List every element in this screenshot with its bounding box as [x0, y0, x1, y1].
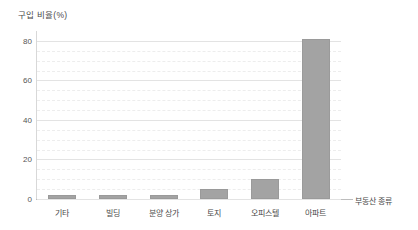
y-axis-tick-label: 40 — [4, 115, 32, 124]
bar-빌딩[interactable] — [99, 195, 127, 199]
bar-series — [37, 31, 341, 199]
y-axis-tick-label: 60 — [4, 76, 32, 85]
bar-slot — [37, 31, 88, 199]
x-axis-tick-label-slot: 토지 — [189, 202, 240, 220]
y-axis-tick-label: 20 — [4, 155, 32, 164]
x-axis-tick-label: 분양 상가 — [149, 209, 179, 218]
x-axis-tick-label: 아파트 — [305, 209, 326, 218]
y-axis-tick-label: 80 — [4, 36, 32, 45]
bar-slot — [240, 31, 291, 199]
x-axis-tick-label-slot: 아파트 — [290, 202, 341, 220]
bar-토지[interactable] — [200, 189, 228, 199]
bar-아파트[interactable] — [302, 39, 330, 199]
x-axis-tick-label-slot: 분양 상가 — [138, 202, 189, 220]
bar-오피스텔[interactable] — [251, 179, 279, 199]
x-axis-title-leader-line — [341, 199, 353, 200]
x-axis-tick-label: 토지 — [207, 209, 221, 218]
x-axis-tick-label: 빌딩 — [106, 209, 120, 218]
x-axis-title: 부동산 종류 — [355, 195, 392, 206]
x-axis-tick-label-slot: 기타 — [37, 202, 88, 220]
gridline-major — [37, 199, 341, 200]
x-axis-tick-labels: 기타빌딩분양 상가토지오피스텔아파트 — [37, 202, 341, 220]
x-axis-tick-label-slot: 오피스텔 — [240, 202, 291, 220]
bar-slot — [88, 31, 139, 199]
y-axis-tick-label: 0 — [4, 195, 32, 204]
bar-chart: 구입 비율(%) 020406080 기타빌딩분양 상가토지오피스텔아파트 부동… — [0, 0, 418, 230]
x-axis-tick-label: 오피스텔 — [251, 209, 279, 218]
bar-slot — [189, 31, 240, 199]
bar-slot — [138, 31, 189, 199]
bar-기타[interactable] — [48, 195, 76, 199]
bar-slot — [290, 31, 341, 199]
y-axis-tick-labels: 020406080 — [0, 0, 32, 230]
bar-분양 상가[interactable] — [150, 195, 178, 199]
x-axis-tick-label-slot: 빌딩 — [88, 202, 139, 220]
x-axis-tick-label: 기타 — [55, 209, 69, 218]
